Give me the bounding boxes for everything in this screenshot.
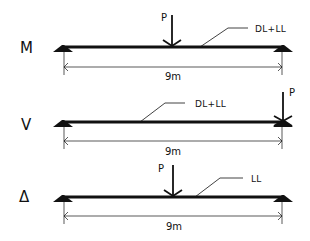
point-load-label: P — [289, 87, 295, 98]
row-shear: V P DL+LL 9m — [21, 87, 295, 157]
span-label: 9m — [166, 221, 182, 232]
leader-line — [195, 178, 243, 197]
row-moment: M P DL+LL 9m — [20, 12, 293, 82]
point-load-label: P — [161, 12, 167, 23]
row-deflection: Δ P LL 9m — [19, 163, 293, 232]
point-load-down-icon — [164, 165, 182, 196]
row-label-v: V — [21, 116, 32, 134]
leader-line — [200, 28, 248, 47]
span-label: 9m — [165, 71, 181, 82]
span-label: 9m — [165, 146, 181, 157]
point-load-label: P — [158, 163, 164, 174]
beam-diagram: M P DL+LL 9m V — [0, 0, 310, 241]
row-label-m: M — [20, 39, 33, 57]
leader-line — [140, 103, 185, 122]
load-label: DL+LL — [255, 24, 286, 34]
load-label: DL+LL — [195, 99, 226, 109]
row-label-delta: Δ — [19, 188, 30, 206]
load-label: LL — [251, 174, 262, 184]
